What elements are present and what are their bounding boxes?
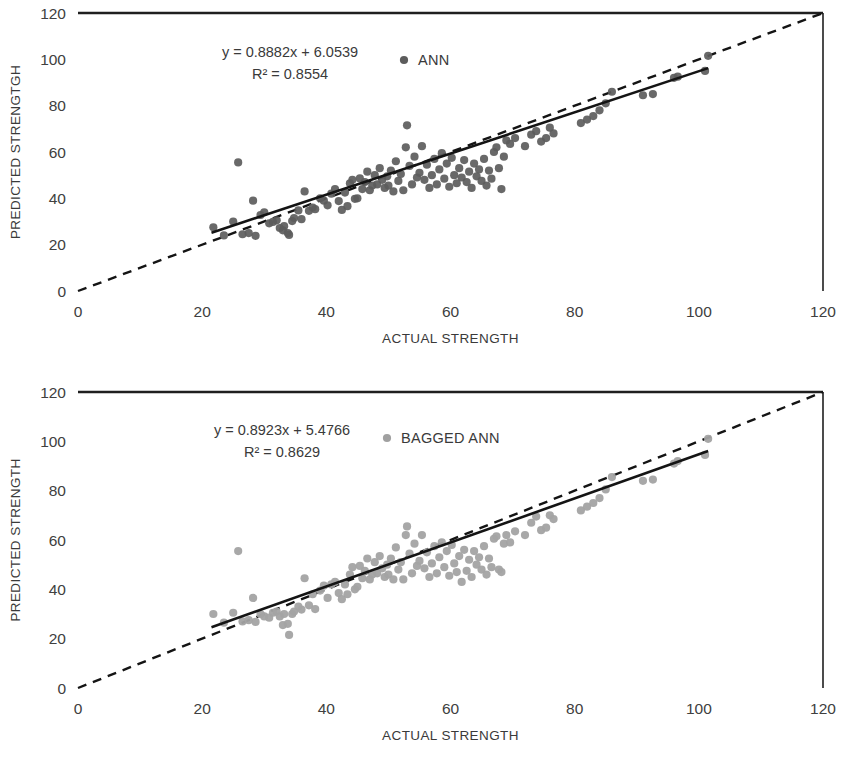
data-point [475,165,483,173]
data-point [353,194,361,202]
data-point [311,605,319,613]
data-point [480,542,488,550]
data-point [465,168,473,176]
x-tick-label: 20 [194,700,212,717]
data-point [343,590,351,598]
data-point [392,543,400,551]
y-axis-tick-labels: 020406080100120 [40,384,66,697]
data-point [410,540,418,548]
data-point [323,594,331,602]
data-point [608,88,616,96]
x-tick-label: 20 [194,303,212,320]
data-point [428,171,436,179]
x-tick-label: 0 [74,700,83,717]
data-point [251,232,259,240]
data-point [389,575,397,583]
scatter-points [209,435,712,639]
data-point [511,134,519,142]
regression-fit-line [211,451,708,627]
data-point [549,515,557,523]
data-point [455,164,463,172]
y-axis-tick-labels: 020406080100120 [40,5,66,300]
chart-panel-bagged-ann: 020406080100120020406080100120ACTUAL STR… [0,379,842,758]
data-point [433,180,441,188]
data-point [468,573,476,581]
y-tick-label: 100 [40,433,66,450]
y-tick-label: 40 [49,190,67,207]
data-point [234,547,242,555]
data-point [389,187,397,195]
data-point [285,631,293,639]
data-point [468,184,476,192]
data-point [415,169,423,177]
data-point [376,164,384,172]
data-point [402,143,410,151]
data-point [399,575,407,583]
data-point [403,522,411,530]
data-point [482,181,490,189]
data-point [485,166,493,174]
data-point [704,435,712,443]
data-point [450,171,458,179]
data-point [418,531,426,539]
data-point [487,563,495,571]
data-point [639,91,647,99]
y-tick-label: 120 [40,5,66,22]
data-point [403,121,411,129]
data-point [440,563,448,571]
data-point [273,216,281,224]
x-tick-label: 0 [74,303,83,320]
data-point [420,176,428,184]
x-tick-label: 100 [686,303,712,320]
x-axis-title: ACTUAL STRENGTH [382,728,519,743]
data-point [425,573,433,581]
data-point [249,197,257,205]
scatter-chart-bagged-ann: 020406080100120020406080100120ACTUAL STR… [0,379,842,758]
x-tick-label: 80 [566,700,584,717]
data-point [234,158,242,166]
legend[interactable]: ANN [400,52,450,68]
data-point [420,564,428,572]
y-tick-label: 60 [49,144,67,161]
x-tick-label: 100 [686,700,712,717]
data-point [482,570,490,578]
data-point [542,524,550,532]
data-point [220,231,228,239]
data-point [402,531,410,539]
data-point [453,568,461,576]
data-point [311,205,319,213]
data-point [415,557,423,565]
data-point [348,176,356,184]
data-point [363,168,371,176]
chart-panel-ann: 020406080100120020406080100120ACTUAL STR… [0,0,842,379]
data-point [433,569,441,577]
x-tick-label: 120 [810,700,836,717]
data-point [497,568,505,576]
data-point [348,563,356,571]
y-tick-label: 20 [49,236,67,253]
data-point [408,569,416,577]
scatter-chart-ann: 020406080100120020406080100120ACTUAL STR… [0,0,842,379]
data-point [418,142,426,150]
data-point [445,572,453,580]
data-point [297,605,305,613]
data-point [408,180,416,188]
data-point [549,129,557,137]
data-point [343,202,351,210]
data-point [480,155,488,163]
data-point [394,566,402,574]
y-tick-label: 120 [40,384,66,401]
regression-equation-text: y = 0.8923x + 5.4766 [214,422,350,438]
data-point [649,90,657,98]
data-point [511,527,519,535]
data-point [458,578,466,586]
legend-marker-icon [400,56,408,64]
y-tick-label: 80 [49,97,67,114]
y-tick-label: 100 [40,51,66,68]
y-tick-label: 60 [49,532,67,549]
data-point [495,164,503,172]
data-point [376,552,384,560]
data-point [290,214,298,222]
data-point [425,184,433,192]
legend[interactable]: BAGGED ANN [383,430,500,446]
